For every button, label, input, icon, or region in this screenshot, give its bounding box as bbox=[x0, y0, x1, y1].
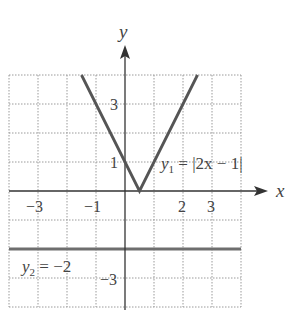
y-axis-label: y bbox=[117, 21, 128, 42]
series-y1-label: y1 = |2x − 1| bbox=[159, 154, 243, 175]
graph: x y −3 −1 2 3 3 1 −3 y1 = |2x − 1| y2 = … bbox=[0, 0, 292, 323]
y-tick-3: 3 bbox=[110, 96, 118, 113]
series-y2-label: y2 = −2 bbox=[20, 257, 71, 278]
x-axis-label: x bbox=[275, 180, 285, 201]
x-tick-m3: −3 bbox=[26, 198, 43, 215]
x-tick-3: 3 bbox=[207, 198, 215, 215]
y-tick-labels: 3 1 −3 bbox=[100, 96, 118, 288]
x-tick-m1: −1 bbox=[84, 198, 101, 215]
y-tick-1: 1 bbox=[110, 154, 118, 171]
y-tick-m3: −3 bbox=[100, 271, 117, 288]
x-tick-2: 2 bbox=[178, 198, 186, 215]
x-tick-labels: −3 −1 2 3 bbox=[26, 198, 215, 215]
